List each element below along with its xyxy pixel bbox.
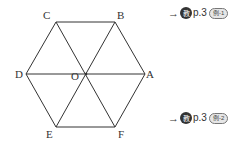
arrow-right-icon: → [168, 8, 179, 19]
center-point [85, 73, 88, 76]
example-tag: 例-1 [209, 8, 228, 19]
arrow-right-icon: → [168, 113, 179, 124]
vertex-label-d: D [15, 69, 23, 80]
vertex-label-b: B [117, 10, 124, 21]
textbook-reference-2[interactable]: → 教 p.3 例-2 [168, 111, 228, 125]
vertex-label-o: O [71, 71, 79, 82]
vertex-label-a: A [146, 69, 154, 80]
hexagon-figure: C B D O A E F [0, 0, 170, 143]
textbook-badge-icon: 教 [180, 112, 192, 124]
hexagon-diagram [0, 0, 170, 143]
page-number: p.3 [193, 113, 207, 123]
vertex-label-c: C [43, 10, 50, 21]
example-tag: 例-2 [209, 113, 228, 124]
vertex-label-f: F [118, 129, 124, 140]
textbook-badge-icon: 教 [180, 7, 192, 19]
textbook-reference-1[interactable]: → 教 p.3 例-1 [168, 6, 228, 20]
page-number: p.3 [193, 8, 207, 18]
vertex-label-e: E [46, 129, 53, 140]
